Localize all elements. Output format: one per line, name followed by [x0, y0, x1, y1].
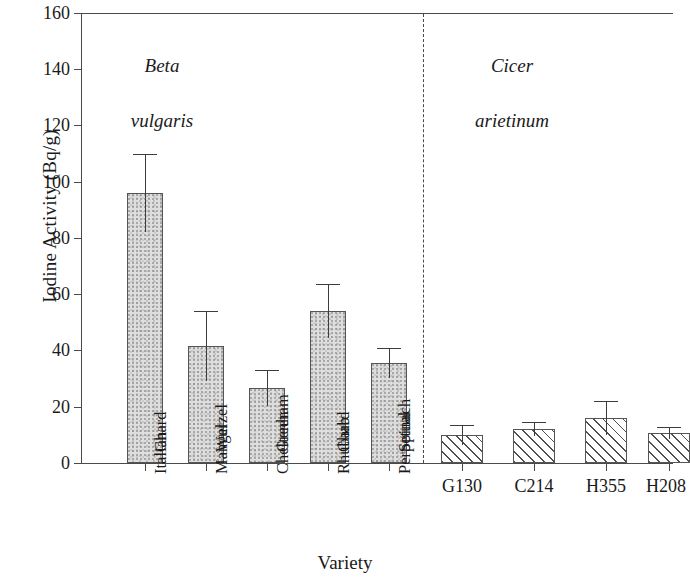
errorbar-cap-c214: [522, 422, 546, 423]
y-axis-line: [81, 13, 82, 464]
y-tick-label-60: 60: [10, 284, 70, 305]
x-label-cheltenham-green-line1: Cheltenham: [274, 456, 292, 474]
errorbar-cap-italian-chard: [133, 154, 157, 155]
errorbar-cap-h355: [594, 401, 618, 402]
y-tick-mark-100: [74, 182, 81, 183]
y-tick-label-140: 140: [10, 59, 70, 80]
x-tick-mark-g130: [462, 463, 463, 471]
x-axis-title: Variety: [0, 552, 690, 574]
y-tick-label-40: 40: [10, 340, 70, 361]
x-tick-mark-cheltenham-green: [267, 463, 268, 471]
group-heading-beta-vulgaris: Beta vulgaris: [92, 24, 232, 162]
x-label-c214: C214: [499, 476, 569, 497]
y-tick-mark-120: [74, 125, 81, 126]
group-divider-dashed-line: [423, 14, 424, 463]
x-label-italian-chard-line2: Chard: [152, 434, 170, 452]
y-tick-mark-20: [74, 407, 81, 408]
errorbar-cap-mangel-wurzel: [194, 311, 218, 312]
errorbar-cap-cheltenham-green: [255, 370, 279, 371]
x-label-rhubarb-chard-line2: Chard: [335, 434, 353, 452]
group-heading-beta-line1: Beta: [92, 52, 232, 80]
x-tick-mark-h355: [606, 463, 607, 471]
y-tick-mark-80: [74, 238, 81, 239]
x-label-h208: H208: [631, 476, 690, 497]
x-tick-mark-h208: [669, 463, 670, 471]
errorbar-stem-g130: [462, 425, 463, 445]
x-label-mangel-wurzel-line2: Wurzel: [213, 434, 231, 452]
group-heading-cicer-arietinum: Cicer arietinum: [432, 24, 592, 162]
bar-chart-figure: Iodine Activity (Bq/g) 160 140 120 100 8…: [0, 0, 690, 582]
errorbar-stem-cheltenham-green: [267, 370, 268, 406]
x-label-italian-chard-line1: Italian: [152, 456, 170, 474]
errorbar-stem-h355: [606, 401, 607, 435]
errorbar-stem-mangel-wurzel: [206, 311, 207, 381]
y-tick-label-80: 80: [10, 228, 70, 249]
y-tick-mark-60: [74, 294, 81, 295]
y-tick-label-20: 20: [10, 397, 70, 418]
x-tick-mark-rhubarb-chard: [328, 463, 329, 471]
errorbar-stem-rhubarb-chard: [328, 284, 329, 338]
y-tick-mark-40: [74, 350, 81, 351]
x-label-rhubarb-chard-line1: Rhubarb: [335, 456, 353, 474]
x-label-cheltenham-green-line2: Green: [274, 434, 292, 452]
x-label-g130: G130: [427, 476, 497, 497]
errorbar-cap-g130: [450, 425, 474, 426]
x-tick-mark-italian-chard: [145, 463, 146, 471]
y-tick-label-100: 100: [10, 172, 70, 193]
x-tick-mark-perpetual-spinach: [389, 463, 390, 471]
x-tick-mark-mangel-wurzel: [206, 463, 207, 471]
errorbar-cap-perpetual-spinach: [377, 348, 401, 349]
x-label-mangel-wurzel-line1: Mangel: [213, 456, 231, 474]
errorbar-stem-perpetual-spinach: [389, 348, 390, 378]
errorbar-stem-italian-chard: [145, 154, 146, 232]
group-heading-beta-line2: vulgaris: [92, 107, 232, 135]
errorbar-stem-c214: [534, 422, 535, 436]
y-tick-mark-160: [74, 13, 81, 14]
y-tick-label-160: 160: [10, 3, 70, 24]
y-tick-mark-140: [74, 69, 81, 70]
y-tick-mark-0: [74, 463, 81, 464]
x-label-perpetual-spinach-line2: Spinach: [396, 434, 414, 452]
group-heading-cicer-line2: arietinum: [432, 107, 592, 135]
group-heading-cicer-line1: Cicer: [432, 52, 592, 80]
x-label-perpetual-spinach-line1: Perpetual: [396, 456, 414, 474]
y-tick-label-0: 0: [10, 453, 70, 474]
errorbar-stem-h208: [669, 427, 670, 439]
errorbar-cap-rhubarb-chard: [316, 284, 340, 285]
y-tick-label-120: 120: [10, 115, 70, 136]
x-tick-mark-c214: [534, 463, 535, 471]
errorbar-cap-h208: [657, 427, 681, 428]
